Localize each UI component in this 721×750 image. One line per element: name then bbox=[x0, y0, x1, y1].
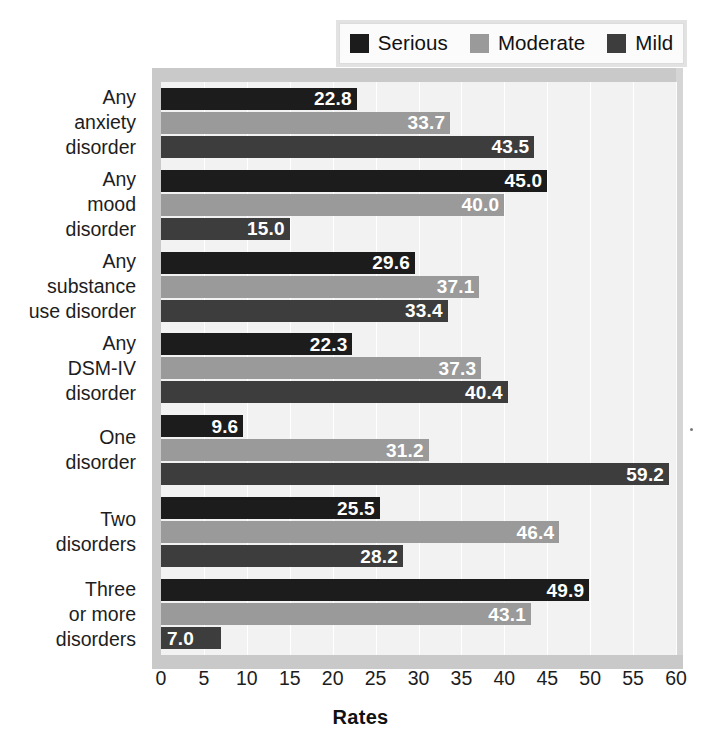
bar-serious[interactable]: 45.0 bbox=[161, 170, 547, 192]
bar-value-label: 31.2 bbox=[386, 441, 424, 460]
bar-group: 29.637.133.4 bbox=[161, 246, 676, 328]
bar-serious[interactable]: 22.8 bbox=[161, 88, 357, 110]
category-label-line: Any bbox=[0, 167, 136, 192]
bar-group: 49.943.17.0 bbox=[161, 573, 676, 655]
bar-mild[interactable]: 59.2 bbox=[161, 463, 669, 485]
bar-serious[interactable]: 22.3 bbox=[161, 333, 352, 355]
bar-value-label: 43.5 bbox=[492, 137, 530, 156]
bar-row: 45.0 bbox=[161, 170, 676, 192]
bar-value-label: 33.7 bbox=[407, 113, 445, 132]
bar-row: 37.1 bbox=[161, 276, 676, 298]
category-label-line: anxiety bbox=[0, 110, 136, 135]
bar-mild[interactable]: 33.4 bbox=[161, 300, 448, 322]
x-axis-tick-label: 40 bbox=[493, 669, 515, 689]
bar-row: 7.0 bbox=[161, 627, 676, 649]
category-label-line: Any bbox=[0, 331, 136, 356]
category-axis-labels: AnyanxietydisorderAnymooddisorderAnysubs… bbox=[0, 68, 146, 669]
bar-row: 33.4 bbox=[161, 300, 676, 322]
x-axis-title: Rates bbox=[0, 706, 721, 729]
category-label-line: substance bbox=[0, 274, 136, 299]
bar-moderate[interactable]: 46.4 bbox=[161, 521, 559, 543]
bar-row: 43.1 bbox=[161, 603, 676, 625]
legend-swatch-icon bbox=[607, 34, 626, 53]
bar-value-label: 40.0 bbox=[462, 195, 500, 214]
category-label-line: disorder bbox=[0, 135, 136, 160]
chart-plot-area: 22.833.743.545.040.015.029.637.133.422.3… bbox=[152, 68, 683, 669]
legend-label: Mild bbox=[635, 33, 673, 54]
x-axis-tick-label: 15 bbox=[279, 669, 301, 689]
bar-row: 49.9 bbox=[161, 579, 676, 601]
category-label: Onedisorder bbox=[0, 425, 136, 475]
category-label: Twodisorders bbox=[0, 507, 136, 557]
bar-serious[interactable]: 25.5 bbox=[161, 497, 380, 519]
bar-moderate[interactable]: 33.7 bbox=[161, 112, 450, 134]
category-label-line: One bbox=[0, 425, 136, 450]
bar-value-label: 43.1 bbox=[488, 605, 526, 624]
bar-row: 43.5 bbox=[161, 136, 676, 158]
x-axis-tick-label: 55 bbox=[622, 669, 644, 689]
legend-item-serious: Serious bbox=[350, 33, 448, 54]
x-axis-tick-label: 30 bbox=[408, 669, 430, 689]
artifact-speck bbox=[690, 428, 693, 431]
bar-value-label: 33.4 bbox=[405, 301, 443, 320]
category-label-line: disorder bbox=[0, 217, 136, 242]
bar-value-label: 22.3 bbox=[310, 335, 348, 354]
bar-moderate[interactable]: 31.2 bbox=[161, 439, 429, 461]
x-axis-tick-label: 35 bbox=[451, 669, 473, 689]
legend-label: Moderate bbox=[498, 33, 585, 54]
category-label: Threeor moredisorders bbox=[0, 577, 136, 652]
bar-value-label: 9.6 bbox=[211, 417, 238, 436]
bar-series-container: 22.833.743.545.040.015.029.637.133.422.3… bbox=[161, 82, 676, 655]
category-label-line: use disorder bbox=[0, 299, 136, 324]
bar-value-label: 25.5 bbox=[337, 499, 375, 518]
bar-value-label: 29.6 bbox=[372, 253, 410, 272]
category-label-line: disorders bbox=[0, 532, 136, 557]
legend-item-moderate: Moderate bbox=[470, 33, 585, 54]
bar-value-label: 7.0 bbox=[167, 629, 194, 648]
category-label-line: disorder bbox=[0, 381, 136, 406]
x-axis-ticks: 051015202530354045505560 bbox=[152, 669, 683, 699]
bar-value-label: 37.1 bbox=[437, 277, 475, 296]
bar-row: 15.0 bbox=[161, 218, 676, 240]
bar-row: 28.2 bbox=[161, 545, 676, 567]
bar-row: 29.6 bbox=[161, 252, 676, 274]
bar-serious[interactable]: 9.6 bbox=[161, 415, 243, 437]
plot-top-band bbox=[152, 68, 683, 82]
category-label: AnyDSM-IVdisorder bbox=[0, 331, 136, 406]
x-axis-tick-label: 5 bbox=[198, 669, 209, 689]
bar-row: 22.8 bbox=[161, 88, 676, 110]
x-axis-tick-label: 50 bbox=[579, 669, 601, 689]
category-label: Anysubstanceuse disorder bbox=[0, 249, 136, 324]
category-label: Anyanxietydisorder bbox=[0, 85, 136, 160]
bar-moderate[interactable]: 40.0 bbox=[161, 194, 504, 216]
bar-group: 22.337.340.4 bbox=[161, 328, 676, 410]
category-label-line: DSM-IV bbox=[0, 356, 136, 381]
x-axis-tick-label: 10 bbox=[236, 669, 258, 689]
bar-row: 22.3 bbox=[161, 333, 676, 355]
bar-moderate[interactable]: 37.3 bbox=[161, 357, 481, 379]
bar-mild[interactable]: 15.0 bbox=[161, 218, 290, 240]
bar-row: 40.0 bbox=[161, 194, 676, 216]
category-label-line: disorder bbox=[0, 450, 136, 475]
gridline bbox=[676, 82, 677, 655]
bar-value-label: 15.0 bbox=[247, 219, 285, 238]
bar-mild[interactable]: 40.4 bbox=[161, 381, 508, 403]
category-label-line: Two bbox=[0, 507, 136, 532]
x-axis-tick-label: 25 bbox=[365, 669, 387, 689]
plot-left-spine bbox=[152, 68, 161, 669]
bar-group: 22.833.743.5 bbox=[161, 82, 676, 164]
bar-mild[interactable]: 43.5 bbox=[161, 136, 534, 158]
bar-value-label: 49.9 bbox=[547, 581, 585, 600]
legend-label: Serious bbox=[378, 33, 448, 54]
bar-serious[interactable]: 29.6 bbox=[161, 252, 415, 274]
category-label-line: mood bbox=[0, 192, 136, 217]
bar-serious[interactable]: 49.9 bbox=[161, 579, 589, 601]
bar-mild[interactable]: 7.0 bbox=[161, 627, 221, 649]
bar-moderate[interactable]: 43.1 bbox=[161, 603, 531, 625]
bar-row: 33.7 bbox=[161, 112, 676, 134]
x-axis-tick-label: 0 bbox=[156, 669, 167, 689]
bar-mild[interactable]: 28.2 bbox=[161, 545, 403, 567]
x-axis-tick-label: 20 bbox=[322, 669, 344, 689]
legend-item-mild: Mild bbox=[607, 33, 673, 54]
bar-moderate[interactable]: 37.1 bbox=[161, 276, 479, 298]
